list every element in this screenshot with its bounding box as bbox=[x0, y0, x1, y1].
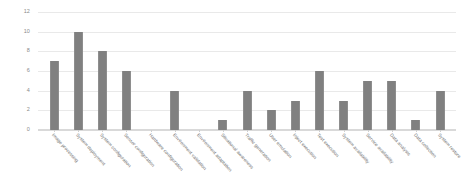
bar[interactable] bbox=[291, 101, 300, 131]
x-tick-slot: Situational awareness bbox=[211, 130, 235, 191]
x-tick-slot: Environment adaptation bbox=[187, 130, 211, 191]
bar[interactable] bbox=[267, 110, 276, 130]
x-axis: Image processingSystem deploymentSystem … bbox=[38, 130, 456, 191]
bar-slot bbox=[356, 12, 380, 130]
y-tick-label: 2 bbox=[27, 108, 30, 114]
y-tick-label: 12 bbox=[24, 9, 30, 15]
x-tick-slot: System restore bbox=[428, 130, 452, 191]
x-tick-slot: Inject execution bbox=[283, 130, 307, 191]
x-tick-slot: User emulation bbox=[259, 130, 283, 191]
bar-slot bbox=[235, 12, 259, 130]
y-tick-label: 6 bbox=[27, 68, 30, 74]
bar-slot bbox=[259, 12, 283, 130]
x-tick-slot: Data collection bbox=[404, 130, 428, 191]
bar[interactable] bbox=[243, 91, 252, 130]
y-tick-label: 0 bbox=[27, 127, 30, 133]
bar-slot bbox=[114, 12, 138, 130]
bar-chart: 024681012 Image processingSystem deploym… bbox=[0, 0, 466, 191]
plot-area bbox=[38, 12, 456, 130]
x-tick-slot: Service availability bbox=[356, 130, 380, 191]
bar-slot bbox=[163, 12, 187, 130]
bar[interactable] bbox=[218, 120, 227, 130]
y-tick-label: 10 bbox=[24, 29, 30, 35]
x-tick-slot: System deployment bbox=[66, 130, 90, 191]
bar-slot bbox=[66, 12, 90, 130]
bar-slot bbox=[211, 12, 235, 130]
x-tick-slot: Data analysis bbox=[380, 130, 404, 191]
bar-series bbox=[38, 12, 456, 130]
bar[interactable] bbox=[170, 91, 179, 130]
x-tick-label: System restore bbox=[437, 133, 462, 160]
bar[interactable] bbox=[436, 91, 445, 130]
bar-slot bbox=[139, 12, 163, 130]
bar[interactable] bbox=[315, 71, 324, 130]
bar-slot bbox=[90, 12, 114, 130]
bar-slot bbox=[428, 12, 452, 130]
x-tick-slot: System availability bbox=[332, 130, 356, 191]
bar[interactable] bbox=[98, 51, 107, 130]
bar[interactable] bbox=[363, 81, 372, 130]
bar-slot bbox=[307, 12, 331, 130]
x-tick-slot: Environment validation bbox=[163, 130, 187, 191]
bar[interactable] bbox=[387, 81, 396, 130]
x-tick-slot: Test execution bbox=[307, 130, 331, 191]
bar[interactable] bbox=[74, 32, 83, 130]
x-tick-slot: System configuration bbox=[90, 130, 114, 191]
y-axis: 024681012 bbox=[0, 12, 34, 130]
x-tick-slot: Traffic generation bbox=[235, 130, 259, 191]
bar[interactable] bbox=[122, 71, 131, 130]
bar-slot bbox=[404, 12, 428, 130]
bar-slot bbox=[187, 12, 211, 130]
bar[interactable] bbox=[339, 101, 348, 131]
bar-slot bbox=[283, 12, 307, 130]
bar[interactable] bbox=[411, 120, 420, 130]
bar[interactable] bbox=[50, 61, 59, 130]
x-tick-slot: Image processing bbox=[42, 130, 66, 191]
x-tick-slot: Sensor configuration bbox=[114, 130, 138, 191]
bar-slot bbox=[380, 12, 404, 130]
y-tick-label: 4 bbox=[27, 88, 30, 94]
x-tick-slot: Hardware configuration bbox=[139, 130, 163, 191]
bar-slot bbox=[332, 12, 356, 130]
bar-slot bbox=[42, 12, 66, 130]
y-tick-label: 8 bbox=[27, 49, 30, 55]
